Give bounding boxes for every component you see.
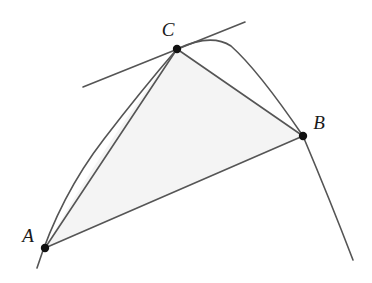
point-c-marker — [173, 45, 181, 53]
geometry-diagram: A B C — [0, 0, 372, 283]
point-b-label: B — [313, 113, 325, 132]
point-a-label: A — [22, 226, 34, 245]
point-a-marker — [41, 244, 49, 252]
shaded-region — [45, 49, 303, 248]
point-c-label: C — [162, 20, 175, 39]
geometry-canvas — [0, 0, 372, 283]
point-b-marker — [299, 132, 307, 140]
